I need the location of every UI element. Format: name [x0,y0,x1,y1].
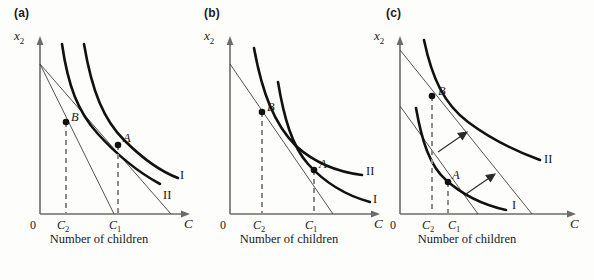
panel-c-curve-II-label: II [544,152,552,167]
panel-c: (c) x2 [372,0,570,258]
panel-b-point-B-label: B [267,100,275,115]
figure-caption-bar: FIGURE A4.14 [0,258,594,280]
panel-c-plot [372,0,594,258]
panel-a-curve-I [84,44,178,178]
panel-c-origin-label: 0 [390,218,396,233]
panel-a-x-axis-caption: Number of children [0,232,198,247]
panel-b-x-axis-caption: Number of children [190,232,388,247]
panel-a-indifference-curves [62,44,178,184]
panel-c-indifference-curves [416,40,540,210]
panel-c-curve-II [424,40,540,160]
panel-b: (b) x2 B [190,0,388,258]
panel-a-point-A-label: A [123,131,131,146]
panel-c-x-axis-caption: Number of children [368,232,566,247]
panel-a: (a) x2 [0,0,198,258]
panel-a-origin-label: 0 [30,218,36,233]
panel-c-curve-I-label: I [512,198,516,213]
panel-a-curve-I-label: I [180,168,184,183]
panel-c-curve-I [416,108,506,210]
panel-c-point-A-label: A [452,168,460,183]
panel-a-curve-II-label: II [163,188,171,203]
panel-c-x-axis-end-label: C [570,216,579,232]
panel-b-axes [227,36,380,217]
panel-a-point-B-label: B [71,110,79,125]
panel-b-origin-label: 0 [220,218,226,233]
panel-c-point-B-label: B [438,84,446,99]
panel-c-dashed-guides [432,96,448,214]
panel-b-point-A-label: A [319,157,327,172]
figure-a414: (a) x2 [0,0,594,280]
panel-a-budget-lines [40,64,171,214]
panel-c-axes [397,36,576,217]
panel-a-dashed-guides [66,122,118,214]
panel-b-budget-lines [230,64,333,214]
